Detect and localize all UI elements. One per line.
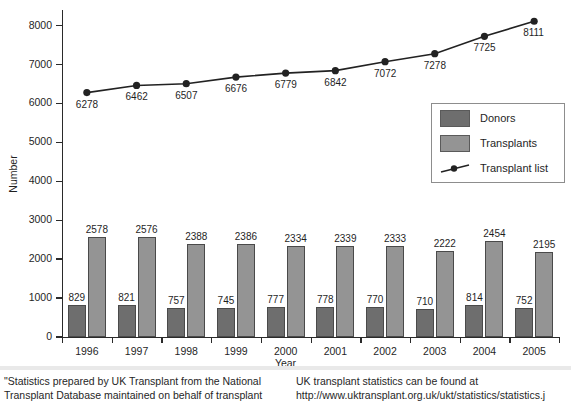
line-value-label: 7278 bbox=[424, 60, 446, 71]
transplant-list-line bbox=[87, 21, 534, 92]
footnote-left-line-1: "Statistics prepared by UK Transplant fr… bbox=[4, 375, 292, 389]
line-data-point bbox=[83, 89, 90, 96]
line-data-point bbox=[282, 70, 289, 77]
legend-item-transplants: Transplants bbox=[440, 133, 537, 153]
line-value-label: 6842 bbox=[324, 77, 346, 88]
footnote-left-line-2: Transplant Database maintained on behalf… bbox=[4, 389, 292, 403]
line-data-point bbox=[183, 80, 190, 87]
chart-footnote: "Statistics prepared by UK Transplant fr… bbox=[0, 366, 571, 404]
legend-label-transplants: Transplants bbox=[480, 137, 537, 149]
line-data-point bbox=[431, 50, 438, 57]
legend-swatch-donors-icon bbox=[440, 110, 470, 127]
chart-legend: Donors Transplants Transplant list bbox=[431, 103, 565, 183]
line-data-point bbox=[481, 33, 488, 40]
legend-item-donors: Donors bbox=[440, 108, 515, 128]
line-value-label: 6507 bbox=[175, 90, 197, 101]
chart-screenshot: 010002000300040005000600070008000 199619… bbox=[0, 0, 571, 404]
line-value-label: 6278 bbox=[76, 99, 98, 110]
footnote-right-column: UK transplant statistics can be found at… bbox=[296, 375, 571, 402]
footnote-right-line-1: UK transplant statistics can be found at bbox=[296, 375, 571, 389]
line-value-label: 7072 bbox=[374, 68, 396, 79]
line-value-label: 6779 bbox=[275, 79, 297, 90]
line-series-svg bbox=[0, 0, 571, 366]
line-value-label: 8111 bbox=[523, 27, 544, 38]
legend-label-donors: Donors bbox=[480, 112, 515, 124]
chart-plot-area: 010002000300040005000600070008000 199619… bbox=[0, 0, 571, 366]
line-data-point bbox=[332, 67, 339, 74]
line-value-label: 6676 bbox=[225, 83, 247, 94]
line-data-point bbox=[381, 58, 388, 65]
footnote-left-column: "Statistics prepared by UK Transplant fr… bbox=[4, 375, 292, 402]
legend-swatch-transplants-icon bbox=[440, 135, 470, 152]
line-data-point bbox=[232, 74, 239, 81]
line-value-label: 6462 bbox=[126, 91, 148, 102]
line-data-point bbox=[531, 18, 538, 25]
footnote-source-url: http://www.uktransplant.org.uk/ukt/stati… bbox=[296, 389, 571, 403]
legend-label-transplant-list: Transplant list bbox=[480, 162, 548, 174]
legend-line-marker-icon bbox=[440, 160, 470, 177]
legend-item-transplant-list: Transplant list bbox=[440, 158, 548, 178]
line-value-label: 7725 bbox=[473, 42, 495, 53]
line-data-point bbox=[133, 82, 140, 89]
